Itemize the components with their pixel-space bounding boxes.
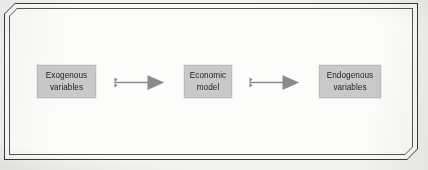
node-exogenous-variables: Exogenous variables — [37, 65, 96, 98]
node-economic-model: Economic model — [184, 65, 232, 98]
flow-row: Exogenous variables Economic model Endog… — [0, 0, 428, 170]
block-arrow-right-icon — [114, 73, 165, 92]
node-endogenous-variables-label: Endogenous variables — [324, 70, 376, 93]
block-arrow-right-icon — [249, 73, 300, 92]
node-endogenous-variables: Endogenous variables — [319, 65, 381, 98]
node-exogenous-variables-label: Exogenous variables — [43, 70, 90, 93]
node-economic-model-label: Economic model — [187, 70, 229, 93]
diagram-canvas: Exogenous variables Economic model Endog… — [0, 0, 428, 170]
